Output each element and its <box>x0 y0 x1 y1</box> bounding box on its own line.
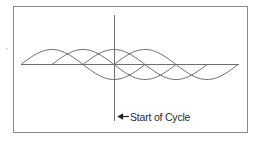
start-of-cycle-annotation: Start of Cycle <box>119 111 191 123</box>
start-of-cycle-label: Start of Cycle <box>130 111 191 123</box>
cycle-diagram: Start of Cycle <box>0 0 255 142</box>
left-arrow-icon <box>119 114 130 118</box>
scan-speck <box>6 48 8 50</box>
